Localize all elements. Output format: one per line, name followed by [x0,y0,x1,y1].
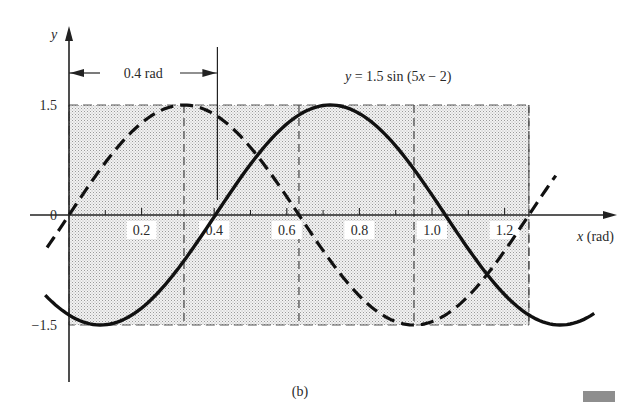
arrow-left-icon [70,69,84,77]
arrow-right-icon [202,69,216,77]
x-tick-label: 0.6 [278,223,296,238]
page-marker [583,391,615,402]
y-axis-arrow-icon [65,26,73,41]
y-tick-label: −1.5 [32,318,57,333]
equation-label: y = 1.5 sin (5x − 2) [343,69,452,85]
y-axis: y 1.50−1.5 [32,26,73,382]
figure-caption: (b) [292,384,309,400]
y-tick-label: 1.5 [40,98,58,113]
x-tick-label: 0.8 [351,223,369,238]
y-axis-label: y [49,27,58,42]
x-tick-label: 1.0 [423,223,441,238]
x-axis-arrow-icon [603,211,617,219]
x-axis-label: x (rad) [576,229,614,245]
x-tick-label: 0.2 [133,223,151,238]
x-tick-label: 1.2 [496,223,514,238]
phase-shift-label: 0.4 rad [124,66,163,81]
y-tick-label: 0 [50,208,57,223]
sinusoid-figure: 0.20.40.60.81.01.2 x (rad) y 1.50−1.5 0.… [0,0,634,412]
